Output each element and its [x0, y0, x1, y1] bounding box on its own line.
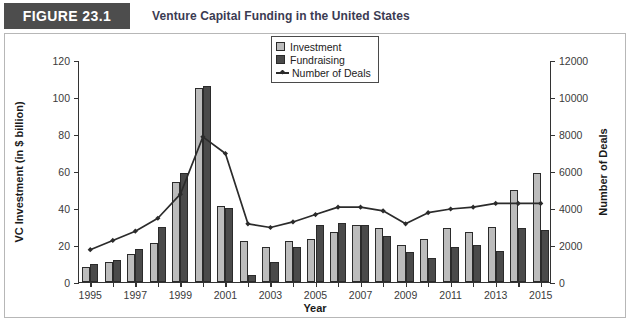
deals-marker-2002 — [245, 221, 250, 226]
bar-fundraising-2001 — [225, 208, 233, 282]
y-axis-right-tick — [550, 283, 555, 284]
bar-fundraising-2014 — [518, 228, 526, 282]
y-axis-left-tick-label: 100 — [52, 92, 70, 104]
figure-number-label: FIGURE 23.1 — [23, 8, 111, 24]
bar-investment-2010 — [420, 239, 428, 282]
bar-investment-2006 — [330, 232, 338, 282]
y-axis-left-title: VC Investment (in $ billion) — [13, 101, 25, 242]
x-axis-tick — [451, 282, 452, 287]
y-axis-right-title: Number of Deals — [597, 128, 609, 215]
x-axis-tick-label: 2011 — [439, 289, 462, 301]
y-axis-right-tick-label: 2000 — [559, 240, 582, 252]
deals-marker-1996 — [110, 238, 115, 243]
x-axis-tick — [316, 282, 317, 287]
x-axis-tick — [113, 282, 114, 287]
bar-investment-2000 — [195, 88, 203, 282]
bar-fundraising-1999 — [180, 173, 188, 282]
bar-investment-1997 — [127, 254, 135, 282]
bar-fundraising-2002 — [248, 275, 256, 282]
y-axis-right-tick-label: 0 — [559, 277, 565, 289]
x-axis-tick-label: 2005 — [304, 289, 327, 301]
x-axis-tick-label: 2013 — [484, 289, 507, 301]
bar-fundraising-2008 — [383, 236, 391, 282]
deals-marker-2004 — [290, 219, 295, 224]
bar-investment-2011 — [443, 228, 451, 282]
bar-investment-2012 — [465, 232, 473, 282]
x-axis-tick — [248, 282, 249, 287]
figure-title: Venture Capital Funding in the United St… — [152, 9, 410, 23]
y-axis-left-tick-label: 80 — [58, 129, 70, 141]
bar-investment-2003 — [262, 247, 270, 282]
bar-investment-1995 — [82, 267, 90, 282]
y-axis-right-tick-label: 12000 — [559, 55, 588, 67]
deals-marker-1998 — [155, 216, 160, 221]
bar-fundraising-2009 — [406, 252, 414, 282]
bar-investment-2001 — [217, 206, 225, 282]
x-axis-tick — [406, 282, 407, 287]
y-axis-right-tick — [550, 172, 555, 173]
swatch-icon — [276, 42, 285, 51]
bar-investment-2002 — [240, 241, 248, 282]
x-axis-tick — [293, 282, 294, 287]
y-axis-left-tick-label: 60 — [58, 166, 70, 178]
bar-investment-2014 — [510, 190, 518, 283]
x-axis-tick-label: 1997 — [124, 289, 147, 301]
bar-fundraising-2003 — [270, 262, 278, 282]
x-axis-tick — [203, 282, 204, 287]
bar-fundraising-2015 — [541, 230, 549, 282]
y-axis-right-tick — [550, 246, 555, 247]
y-axis-right-tick — [550, 98, 555, 99]
bar-fundraising-2013 — [496, 251, 504, 282]
y-axis-left-tick — [74, 246, 79, 247]
y-axis-right-tick-label: 6000 — [559, 166, 582, 178]
legend-item-label: Fundraising — [290, 54, 345, 66]
y-axis-right-tick — [550, 209, 555, 210]
x-axis-tick-label: 2015 — [529, 289, 552, 301]
bar-fundraising-1995 — [90, 264, 98, 283]
legend-item-label: Number of Deals — [292, 67, 371, 79]
y-axis-left-tick-label: 40 — [58, 203, 70, 215]
y-axis-left-tick-label: 0 — [64, 277, 70, 289]
x-axis-title: Year — [303, 302, 326, 314]
deals-marker-2001 — [223, 151, 228, 156]
x-axis-tick — [383, 282, 384, 287]
bar-fundraising-2000 — [203, 86, 211, 282]
x-axis-tick-label: 1995 — [79, 289, 102, 301]
deals-marker-2009 — [403, 221, 408, 226]
legend-item-label: Investment — [290, 41, 341, 53]
x-axis-tick — [135, 282, 136, 287]
bar-fundraising-1998 — [158, 227, 166, 283]
x-axis-tick — [270, 282, 271, 287]
x-axis-tick — [225, 282, 226, 287]
bar-investment-1998 — [150, 243, 158, 282]
bar-fundraising-2007 — [361, 225, 369, 282]
bar-fundraising-2012 — [473, 245, 481, 282]
deals-marker-2006 — [335, 205, 340, 210]
y-axis-left-tick — [74, 283, 79, 284]
x-axis-tick — [361, 282, 362, 287]
bar-investment-1999 — [172, 182, 180, 282]
bar-fundraising-2011 — [451, 247, 459, 282]
bar-investment-2004 — [285, 241, 293, 282]
x-axis-tick — [541, 282, 542, 287]
deals-marker-2010 — [426, 210, 431, 215]
x-axis-tick — [90, 282, 91, 287]
bar-investment-2007 — [352, 225, 360, 282]
legend-item-fundraising: Fundraising — [276, 53, 371, 66]
figure-number-badge: FIGURE 23.1 — [4, 3, 130, 29]
bar-fundraising-2005 — [316, 225, 324, 282]
y-axis-left-tick-label: 120 — [52, 55, 70, 67]
y-axis-right-tick — [550, 135, 555, 136]
line-marker-icon — [276, 68, 289, 77]
bar-investment-2013 — [488, 227, 496, 283]
y-axis-left-tick — [74, 61, 79, 62]
y-axis-left-tick — [74, 172, 79, 173]
y-axis-right-tick — [550, 61, 555, 62]
deals-marker-1997 — [133, 229, 138, 234]
plot-area: 020406080100120 020004000600080001000012… — [78, 61, 551, 283]
deals-marker-1995 — [88, 247, 93, 252]
x-axis-tick — [180, 282, 181, 287]
x-axis-tick — [473, 282, 474, 287]
y-axis-left-tick — [74, 98, 79, 99]
x-axis-tick — [518, 282, 519, 287]
